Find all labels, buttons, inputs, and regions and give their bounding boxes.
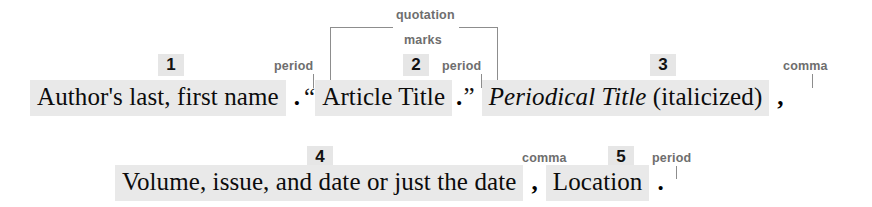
quotation-bracket-right-segment	[459, 27, 498, 28]
citation-part-article-title: Article Title	[315, 80, 452, 116]
citation-punct-comma-2: ,	[530, 167, 538, 197]
label-period-3: period	[652, 151, 691, 165]
citation-part-italicized-note: (italicized)	[653, 83, 762, 110]
label-quotation-marks-line2: marks	[404, 33, 442, 47]
label-quotation-marks-line1: quotation	[396, 8, 455, 22]
citation-part-volume-issue-date: Volume, issue, and date or just the date	[115, 165, 523, 201]
label-comma-1: comma	[783, 59, 828, 73]
citation-punct-period-2: .	[455, 82, 463, 112]
quotation-bracket-left-segment	[330, 27, 393, 28]
citation-part-author: Author's last, first name	[30, 80, 286, 116]
tick-comma-1	[812, 74, 813, 88]
citation-part-periodical-title: Periodical Title	[489, 83, 647, 110]
citation-line-1: Author's last, first name.“Article Title…	[30, 80, 785, 116]
citation-close-quote: ”	[463, 82, 474, 112]
badge-3: 3	[650, 54, 676, 76]
tick-period-3	[676, 166, 677, 179]
citation-punct-period-3: .	[656, 167, 664, 197]
citation-open-quote: “	[304, 82, 315, 112]
citation-punct-comma-1: ,	[776, 82, 784, 112]
citation-line-2: Volume, issue, and date or just the date…	[115, 165, 665, 201]
label-comma-2: comma	[522, 151, 567, 165]
citation-punct-period-1: .	[293, 82, 301, 112]
label-period-2: period	[442, 59, 481, 73]
quotation-bracket-left-drop	[330, 27, 331, 83]
quotation-bracket-right-drop	[497, 27, 498, 83]
label-period-1: period	[274, 59, 313, 73]
citation-part-location: Location	[546, 165, 650, 201]
badge-1: 1	[158, 54, 184, 76]
badge-2: 2	[403, 54, 429, 76]
citation-format-diagram: quotation marks period period comma comm…	[0, 0, 872, 207]
